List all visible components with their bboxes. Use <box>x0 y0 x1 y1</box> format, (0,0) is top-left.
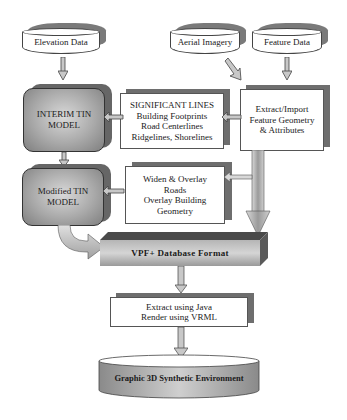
extract-import-box: Extract/Import Feature Geometry & Attrib… <box>240 89 324 151</box>
feature-to-extract-arrow <box>282 57 292 81</box>
extract-to-vpf-arrow <box>224 150 274 240</box>
modified-tin-model: Modified TIN MODEL <box>22 168 104 226</box>
elevation-to-interim-arrow <box>58 57 68 81</box>
feature-data-source: Feature Data <box>252 28 322 54</box>
significant-lines-box: SIGNIFICANT LINES Building Footprints Ro… <box>120 93 224 149</box>
extract-to-lines-arrow <box>222 112 242 122</box>
modified-to-vpf-arrow <box>56 225 106 260</box>
vpf-to-render-arrow <box>175 266 187 294</box>
vpf-database-label: VPF+ Database Format <box>100 248 260 258</box>
elevation-data-label: Elevation Data <box>22 37 100 47</box>
widen-to-modified-arrow <box>103 186 125 196</box>
feature-data-label: Feature Data <box>252 37 322 47</box>
output-environment-label: Graphic 3D Synthetic Environment <box>98 373 260 383</box>
significant-lines-title: SIGNIFICANT LINES <box>130 100 214 111</box>
aerial-imagery-source: Aerial Imagery <box>170 28 240 54</box>
aerial-imagery-label: Aerial Imagery <box>170 37 240 47</box>
aerial-to-extract-arrow <box>223 58 243 82</box>
widen-overlay-box: Widen & Overlay Roads Overlay Building G… <box>125 166 225 224</box>
elevation-data-source: Elevation Data <box>22 28 100 54</box>
interim-tin-model: INTERIM TIN MODEL <box>23 88 105 152</box>
extract-render-box: Extract using Java Render using VRML <box>110 297 248 327</box>
lines-to-interim-arrow <box>104 112 124 122</box>
